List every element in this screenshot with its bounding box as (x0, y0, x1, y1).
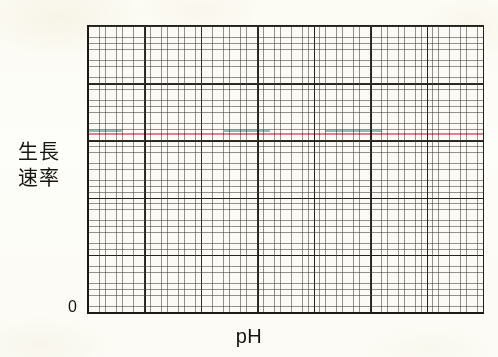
x-axis-label: pH (0, 325, 498, 348)
y-axis-line (87, 25, 89, 314)
y-axis-label-line2: 速率 (18, 165, 82, 191)
teal-rule-segment-1 (88, 130, 122, 132)
x-axis-line (87, 312, 484, 314)
pink-rule-line (88, 133, 483, 135)
y-axis-label-line1: 生長 (18, 139, 82, 165)
origin-tick-label: 0 (68, 298, 77, 316)
y-axis-label: 生長 速率 (18, 139, 82, 191)
graph-paper-chart: 生長 速率 0 pH (0, 0, 498, 357)
teal-rule-segment-3 (325, 130, 382, 132)
plot-grid-area[interactable] (88, 26, 483, 312)
teal-rule-segment-2 (224, 130, 270, 132)
